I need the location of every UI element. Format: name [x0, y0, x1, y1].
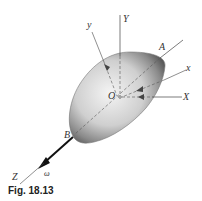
- label-x-body: x: [186, 63, 190, 73]
- rigid-body-shape: [69, 52, 165, 143]
- label-Z-fixed: Z: [12, 172, 18, 182]
- label-Y-fixed: Y: [123, 14, 129, 24]
- figure-caption: Fig. 18.13: [8, 185, 54, 196]
- label-omega: ω: [44, 170, 50, 178]
- label-y-body: y: [87, 20, 91, 30]
- axis-Z-lower: [20, 163, 44, 184]
- label-B: B: [64, 130, 70, 140]
- label-O: O: [108, 91, 115, 101]
- label-A: A: [159, 42, 165, 52]
- diagram-canvas: [0, 0, 202, 201]
- axis-y-body: [92, 32, 104, 62]
- axis-x-body: [164, 70, 186, 80]
- omega-vector-shaft: [45, 137, 73, 162]
- label-X-fixed: X: [183, 92, 189, 102]
- rigid-body-rotation-diagram: y Y A x O X B Z ω Fig. 18.13: [0, 0, 202, 201]
